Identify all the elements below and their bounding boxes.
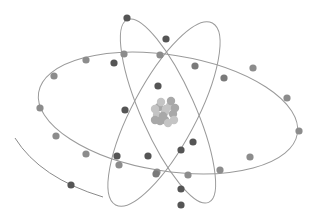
nucleon [157, 98, 165, 106]
electron [162, 35, 169, 42]
electron [156, 51, 163, 58]
partial-orbit-arc [15, 138, 103, 197]
electron [220, 74, 227, 81]
electrons [36, 14, 302, 208]
electron [191, 62, 198, 69]
electron [249, 64, 256, 71]
electron [177, 185, 184, 192]
electron [67, 181, 74, 188]
atom-illustration [0, 0, 317, 224]
electron [121, 106, 128, 113]
electron [295, 127, 302, 134]
electron [50, 72, 57, 79]
electron [123, 14, 130, 21]
electron [216, 166, 223, 173]
electron [113, 152, 120, 159]
electron [115, 161, 122, 168]
electron [152, 170, 159, 177]
electron [82, 150, 89, 157]
nucleon [171, 104, 179, 112]
electron [177, 201, 184, 208]
nucleus [151, 97, 179, 127]
electron [189, 138, 196, 145]
nucleon [151, 105, 159, 113]
electron [144, 152, 151, 159]
electron [283, 94, 290, 101]
nucleon [170, 116, 178, 124]
electron [120, 50, 127, 57]
electron [246, 153, 253, 160]
nucleon [151, 116, 159, 124]
electron [82, 56, 89, 63]
electron [154, 82, 161, 89]
electron [110, 59, 117, 66]
electron [36, 104, 43, 111]
electron [177, 146, 184, 153]
electron [184, 171, 191, 178]
electron [52, 132, 59, 139]
nucleon [159, 112, 167, 120]
